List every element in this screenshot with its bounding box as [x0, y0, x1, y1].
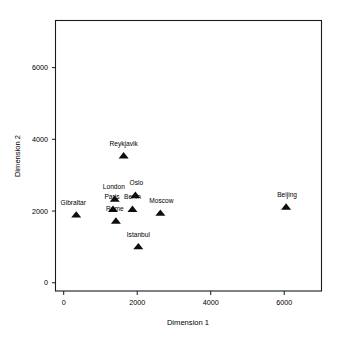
- y-tick-label: 0: [44, 278, 48, 287]
- data-point-label: Reykjavik: [110, 140, 139, 148]
- data-point-marker: [133, 243, 143, 249]
- data-point-label: London: [103, 183, 125, 190]
- data-point-label: Istanbul: [127, 231, 151, 238]
- y-tick-label: 4000: [32, 135, 48, 144]
- scatter-plot-figure: 0200040006000 0200040006000 GibraltarPar…: [0, 0, 340, 350]
- plot-canvas: 0200040006000 0200040006000 GibraltarPar…: [0, 0, 340, 350]
- data-point-marker: [127, 205, 137, 211]
- data-point-label: Rome: [106, 205, 124, 212]
- data-point-marker: [281, 203, 291, 209]
- x-tick-label: 4000: [203, 298, 219, 307]
- data-point-marker: [71, 211, 81, 217]
- x-axis-ticks: 0200040006000: [62, 291, 293, 307]
- data-point-marker: [155, 209, 165, 215]
- y-tick-label: 2000: [32, 207, 48, 216]
- data-point-label: Oslo: [130, 179, 144, 186]
- data-point-label: Gibraltar: [61, 199, 87, 206]
- data-point-label: Moscow: [149, 197, 173, 204]
- x-axis-label: Dimension 1: [167, 318, 209, 327]
- y-axis-label: Dimension 2: [13, 135, 22, 177]
- x-tick-label: 6000: [276, 298, 292, 307]
- x-tick-label: 2000: [129, 298, 145, 307]
- plot-frame: [56, 21, 322, 292]
- data-points: GibraltarParisLondonRomeReykjavikBerlinO…: [61, 140, 298, 249]
- data-point-label: Beijing: [277, 191, 297, 199]
- data-point-marker: [111, 217, 121, 223]
- y-axis-ticks: 0200040006000: [32, 63, 56, 287]
- x-tick-label: 0: [62, 298, 66, 307]
- data-point-marker: [119, 152, 129, 158]
- y-tick-label: 6000: [32, 63, 48, 72]
